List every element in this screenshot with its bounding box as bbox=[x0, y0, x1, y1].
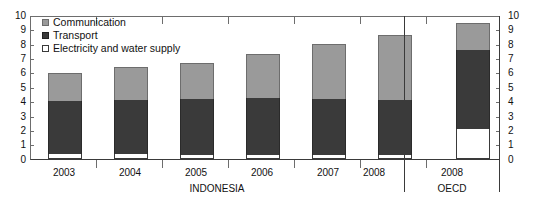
group-divider-right bbox=[499, 16, 500, 192]
dark-swatch-icon bbox=[42, 32, 49, 39]
white-swatch-icon bbox=[42, 45, 49, 52]
bar-segment-electricity bbox=[180, 155, 214, 159]
legend-label-electricity: Electricity and water supply bbox=[53, 43, 180, 54]
x-separator-top bbox=[426, 16, 427, 24]
gray-swatch-icon bbox=[42, 19, 49, 26]
bar-segment-communication bbox=[378, 35, 412, 100]
x-axis-label-2008-oecd: 2008 bbox=[422, 167, 482, 178]
y-axis-right-tick-7: 7 bbox=[508, 54, 530, 64]
y-axis-left-tick-0: 0 bbox=[4, 155, 26, 165]
y-axis-right-tick-2: 2 bbox=[508, 126, 530, 136]
x-separator bbox=[96, 160, 97, 168]
x-axis-label-2006: 2006 bbox=[232, 167, 292, 178]
y-axis-right-tick-9: 9 bbox=[508, 25, 530, 35]
legend-item-communication: Communication bbox=[42, 16, 180, 29]
y-axis-left-tick-3: 3 bbox=[4, 112, 26, 122]
bar-segment-communication bbox=[48, 73, 82, 102]
bar-group-2007 bbox=[312, 44, 346, 159]
chart-legend: Communication Transport Electricity and … bbox=[42, 16, 180, 55]
legend-item-transport: Transport bbox=[42, 29, 180, 42]
y-axis-left-tick-10: 10 bbox=[4, 11, 26, 21]
chart-container: 10 9 8 7 6 5 4 3 2 1 0 10 9 8 7 6 5 4 3 … bbox=[0, 0, 538, 204]
bar-segment-electricity bbox=[48, 154, 82, 159]
legend-label-communication: Communication bbox=[53, 17, 126, 28]
y-axis-right-tick-3: 3 bbox=[508, 112, 530, 122]
x-axis-label-2004: 2004 bbox=[100, 167, 160, 178]
bar-segment-communication bbox=[114, 67, 148, 100]
x-separator bbox=[162, 160, 163, 168]
y-axis-left-tick-2: 2 bbox=[4, 126, 26, 136]
bar-segment-transport bbox=[114, 100, 148, 154]
bar-segment-electricity bbox=[312, 155, 346, 159]
bar-segment-transport bbox=[312, 99, 346, 154]
y-axis-left-tick-8: 8 bbox=[4, 40, 26, 50]
bar-segment-transport bbox=[378, 100, 412, 155]
x-separator-top bbox=[294, 16, 295, 24]
bar-group-2004 bbox=[114, 67, 148, 159]
y-axis-right-tick-1: 1 bbox=[508, 140, 530, 150]
bar-segment-electricity bbox=[114, 154, 148, 159]
bar-group-2006 bbox=[246, 54, 280, 159]
y-axis-right-tick-4: 4 bbox=[508, 97, 530, 107]
x-separator-top bbox=[228, 16, 229, 24]
x-separator-top bbox=[360, 16, 361, 24]
bar-segment-transport bbox=[180, 99, 214, 154]
bar-segment-transport bbox=[246, 98, 280, 155]
group-label-indonesia: INDONESIA bbox=[157, 183, 277, 194]
bar-segment-transport bbox=[48, 101, 82, 154]
y-axis-right-tick-10: 10 bbox=[508, 11, 530, 21]
bar-group-2005 bbox=[180, 63, 214, 159]
y-axis-right-tick-6: 6 bbox=[508, 68, 530, 78]
y-axis-right-tick-8: 8 bbox=[508, 40, 530, 50]
y-axis-left-tick-7: 7 bbox=[4, 54, 26, 64]
y-axis-left-tick-4: 4 bbox=[4, 97, 26, 107]
legend-label-transport: Transport bbox=[53, 30, 98, 41]
bar-segment-electricity bbox=[246, 155, 280, 159]
x-separator bbox=[228, 160, 229, 168]
bar-segment-electricity bbox=[456, 129, 490, 159]
legend-item-electricity: Electricity and water supply bbox=[42, 42, 180, 55]
y-axis-right-tick-5: 5 bbox=[508, 83, 530, 93]
group-divider bbox=[404, 16, 405, 192]
bar-group-2008-oecd bbox=[456, 23, 490, 159]
y-axis-right-tick-0: 0 bbox=[508, 155, 530, 165]
x-axis-label-2003: 2003 bbox=[34, 167, 94, 178]
group-label-oecd: OECD bbox=[422, 183, 482, 194]
bar-segment-communication bbox=[456, 23, 490, 50]
y-axis-left-tick-1: 1 bbox=[4, 140, 26, 150]
y-axis-left-tick-5: 5 bbox=[4, 83, 26, 93]
bar-group-2008-indonesia bbox=[378, 35, 412, 159]
bar-segment-communication bbox=[312, 44, 346, 99]
y-axis-left-tick-6: 6 bbox=[4, 68, 26, 78]
y-axis-left-tick-9: 9 bbox=[4, 25, 26, 35]
bar-group-2003 bbox=[48, 73, 82, 159]
bar-segment-electricity bbox=[378, 155, 412, 159]
bar-segment-communication bbox=[246, 54, 280, 98]
bar-segment-transport bbox=[456, 50, 490, 129]
x-axis-label-2008: 2008 bbox=[344, 167, 404, 178]
bar-segment-communication bbox=[180, 63, 214, 100]
x-separator bbox=[294, 160, 295, 168]
x-axis-label-2005: 2005 bbox=[166, 167, 226, 178]
